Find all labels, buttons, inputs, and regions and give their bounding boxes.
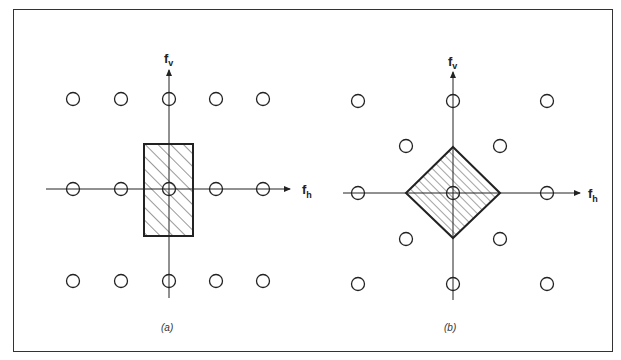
lattice-point bbox=[400, 140, 413, 153]
lattice-point bbox=[210, 275, 223, 288]
lattice-point bbox=[541, 278, 554, 291]
lattice-point bbox=[257, 93, 270, 106]
lattice-point bbox=[494, 140, 507, 153]
panel-a: fv fh (a) bbox=[46, 51, 312, 333]
lattice-point bbox=[67, 93, 80, 106]
lattice-point bbox=[67, 275, 80, 288]
sampling-lattice-diagram: fv fh (a) fv fh (b) bbox=[0, 0, 621, 360]
axis-fh-label: fh bbox=[302, 182, 312, 200]
lattice-point bbox=[210, 93, 223, 106]
lattice-point bbox=[400, 233, 413, 246]
panel-b: fv fh (b) bbox=[343, 54, 598, 333]
axis-fv-label: fv bbox=[448, 54, 457, 71]
lattice-point bbox=[352, 95, 365, 108]
caption-a: (a) bbox=[161, 322, 173, 333]
lattice-point bbox=[541, 95, 554, 108]
lattice-point bbox=[352, 278, 365, 291]
lattice-point bbox=[115, 275, 128, 288]
lattice-point bbox=[494, 233, 507, 246]
lattice-point bbox=[257, 275, 270, 288]
axis-fh-label: fh bbox=[588, 186, 598, 204]
lattice-point bbox=[115, 93, 128, 106]
axis-fv-label: fv bbox=[164, 51, 173, 68]
caption-b: (b) bbox=[444, 322, 456, 333]
